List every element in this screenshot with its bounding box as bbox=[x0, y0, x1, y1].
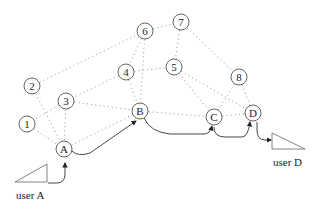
link-4-3 bbox=[66, 72, 126, 101]
route-C-D bbox=[214, 122, 250, 137]
svg-text:2: 2 bbox=[29, 80, 35, 92]
route-userA-A bbox=[48, 163, 65, 183]
svg-text:7: 7 bbox=[178, 16, 184, 28]
user-a: user A bbox=[15, 164, 47, 201]
svg-text:C: C bbox=[210, 111, 217, 123]
svg-text:1: 1 bbox=[24, 118, 30, 130]
route-D-userD bbox=[257, 122, 271, 140]
route-B-C bbox=[144, 118, 212, 134]
node-6: 6 bbox=[137, 23, 153, 39]
node-1: 1 bbox=[19, 116, 35, 132]
node-A: A bbox=[56, 141, 72, 157]
node-2: 2 bbox=[24, 78, 40, 94]
link-B-C bbox=[140, 111, 214, 117]
node-D: D bbox=[245, 105, 261, 121]
node-C: C bbox=[206, 109, 222, 125]
route-A-B bbox=[72, 121, 136, 155]
svg-text:D: D bbox=[249, 107, 257, 119]
user-d-label: user D bbox=[273, 156, 302, 168]
node-7: 7 bbox=[173, 14, 189, 30]
nodes: 6 7 2 4 5 8 3 1 bbox=[19, 14, 261, 157]
svg-text:A: A bbox=[60, 143, 68, 155]
node-B: B bbox=[132, 103, 148, 119]
links bbox=[27, 22, 253, 149]
network-diagram: user A user D 6 7 2 4 5 8 bbox=[0, 0, 320, 206]
svg-text:4: 4 bbox=[123, 66, 129, 78]
link-3-B bbox=[66, 101, 140, 111]
node-8: 8 bbox=[231, 69, 247, 85]
link-5-C bbox=[174, 67, 214, 117]
user-a-label: user A bbox=[16, 189, 44, 201]
node-3: 3 bbox=[58, 93, 74, 109]
link-7-8 bbox=[181, 22, 239, 77]
link-A-B bbox=[64, 111, 140, 149]
svg-text:B: B bbox=[136, 105, 143, 117]
svg-text:8: 8 bbox=[236, 71, 242, 83]
node-5: 5 bbox=[166, 59, 182, 75]
route-path bbox=[48, 118, 271, 183]
link-6-B bbox=[140, 31, 145, 111]
user-a-terminal-icon bbox=[15, 164, 47, 182]
svg-text:3: 3 bbox=[63, 95, 69, 107]
link-2-A bbox=[32, 86, 64, 149]
node-4: 4 bbox=[118, 64, 134, 80]
user-d-terminal-icon bbox=[272, 133, 305, 149]
user-d: user D bbox=[272, 133, 305, 168]
svg-text:6: 6 bbox=[142, 25, 148, 37]
svg-text:5: 5 bbox=[171, 61, 177, 73]
